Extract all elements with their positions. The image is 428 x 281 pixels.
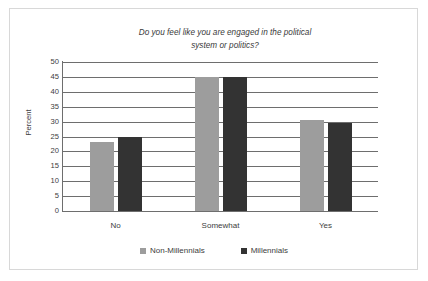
bar [195, 77, 219, 211]
y-axis-tick-label: 0 [33, 207, 59, 215]
gridline [63, 107, 378, 108]
legend-label: Non-Millennials [150, 246, 205, 255]
y-axis-tick-label: 35 [33, 103, 59, 111]
y-axis-tick-label: 10 [33, 177, 59, 185]
legend-item[interactable]: Millennials [241, 246, 288, 255]
y-axis-tick-label: 5 [33, 192, 59, 200]
y-axis-tick-label: 15 [33, 162, 59, 170]
legend-swatch-icon [140, 248, 146, 254]
chart-title-line-1: Do you feel like you are engaged in the … [105, 27, 345, 40]
x-axis-category-label: No [71, 221, 161, 230]
x-axis-category-label: Yes [281, 221, 371, 230]
bar [90, 142, 114, 211]
chart-title: Do you feel like you are engaged in the … [105, 27, 345, 52]
y-axis-tick-labels: 50454035302520151050 [26, 0, 59, 281]
legend-swatch-icon [241, 248, 247, 254]
y-axis-tick-label: 20 [33, 147, 59, 155]
y-axis-tick-label: 25 [33, 133, 59, 141]
bar [328, 123, 352, 211]
legend-item[interactable]: Non-Millennials [140, 246, 205, 255]
gridline [63, 77, 378, 78]
bar [118, 137, 142, 212]
chart-title-line-2: system or politics? [105, 40, 345, 53]
gridline [63, 211, 378, 212]
legend-label: Millennials [251, 246, 288, 255]
bar [223, 77, 247, 211]
y-axis-tick-label: 40 [33, 88, 59, 96]
y-axis-tick-label: 50 [33, 58, 59, 66]
y-axis-tick-label: 30 [33, 118, 59, 126]
gridline [63, 92, 378, 93]
gridline [63, 62, 378, 63]
y-axis-tick-label: 45 [33, 73, 59, 81]
chart-legend: Non-MillennialsMillennials [0, 246, 428, 255]
plot-area [63, 62, 378, 211]
x-axis-category-label: Somewhat [176, 221, 266, 230]
bar [300, 120, 324, 211]
